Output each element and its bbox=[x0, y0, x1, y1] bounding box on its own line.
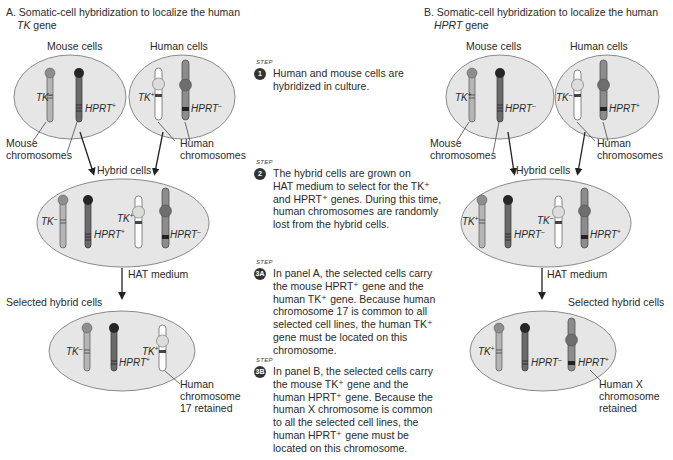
retained-label: chromosome bbox=[599, 390, 660, 403]
gene-label: TK– bbox=[66, 346, 82, 357]
gene-label: HPRT– bbox=[191, 103, 222, 114]
panel-a-title: A. Somatic-cell hybridization to localiz… bbox=[6, 6, 240, 19]
gene-label: TK+ bbox=[455, 92, 472, 103]
gene-label: TK+ bbox=[142, 346, 159, 357]
human-chromosomes-label: chromosomes bbox=[597, 149, 663, 162]
step-3a-text: In panel A, the selected cells carry the… bbox=[273, 267, 435, 357]
hat-medium-label: HAT medium bbox=[128, 268, 188, 281]
step-badge-1: 1 bbox=[254, 68, 266, 80]
retained-label: Human X bbox=[599, 378, 643, 391]
human-chromosomes-label: Human bbox=[180, 137, 214, 150]
mouse-chromosomes-label: Mouse bbox=[430, 137, 462, 150]
gene-label: HPRT– bbox=[531, 357, 562, 368]
hat-medium-label: HAT medium bbox=[547, 268, 607, 281]
step-tag: STEP bbox=[256, 59, 273, 65]
gene-label: HPRT+ bbox=[590, 229, 621, 240]
panel-a-human-cells-label: Human cells bbox=[150, 40, 208, 53]
gene-label: TK+ bbox=[462, 216, 479, 227]
panel-b-mouse-cells-label: Mouse cells bbox=[466, 40, 521, 53]
retained-label: retained bbox=[599, 402, 637, 415]
gene-label: TK– bbox=[537, 215, 553, 226]
retained-label: 17 retained bbox=[180, 402, 233, 415]
mouse-chromosomes-label: Mouse bbox=[6, 137, 38, 150]
step-2-text: The hybrid cells are grown on HAT medium… bbox=[273, 167, 441, 231]
panel-b-human-cells-label: Human cells bbox=[570, 40, 628, 53]
hybrid-cells-label: Hybrid cells bbox=[97, 164, 151, 177]
gene-label: HPRT+ bbox=[119, 357, 150, 368]
selected-hybrid-cells-label: Selected hybrid cells bbox=[568, 296, 664, 309]
retained-label: chromosome bbox=[180, 390, 241, 403]
gene-label: TK+ bbox=[478, 346, 495, 357]
step-badge-2: 2 bbox=[254, 168, 266, 180]
step-1-text: Human and mouse cells are hybridized in … bbox=[273, 67, 404, 93]
gene-label: HPRT+ bbox=[85, 103, 116, 114]
gene-label: TK– bbox=[556, 92, 572, 103]
step-tag: STEP bbox=[256, 159, 273, 165]
gene-label: TK– bbox=[41, 216, 57, 227]
gene-label: HPRT– bbox=[514, 229, 545, 240]
gene-label: HPRT+ bbox=[94, 229, 125, 240]
gene-label: HPRT– bbox=[170, 229, 201, 240]
gene-label: HPRT– bbox=[505, 103, 536, 114]
gene-label: TK– bbox=[36, 92, 52, 103]
panel-b-title-line2: HPRT gene bbox=[434, 19, 489, 32]
human-chromosomes-label: chromosomes bbox=[180, 149, 246, 162]
gene-label: HPRT+ bbox=[609, 103, 640, 114]
step-badge-3b: 3B bbox=[254, 366, 266, 378]
selected-hybrid-cells-label: Selected hybrid cells bbox=[6, 296, 102, 309]
mouse-chromosomes-label: chromosomes bbox=[6, 149, 72, 162]
panel-a-title-line2: TK gene bbox=[17, 19, 57, 32]
hybrid-cells-label: Hybrid cells bbox=[516, 164, 570, 177]
step-3b-text: In panel B, the selected cells carry the… bbox=[273, 365, 433, 455]
step-tag: STEP bbox=[256, 259, 273, 265]
panel-a-mouse-cell bbox=[14, 55, 126, 139]
gene-label: HPRT+ bbox=[578, 357, 609, 368]
step-badge-3a: 3A bbox=[254, 268, 266, 280]
human-chromosomes-label: Human bbox=[597, 137, 631, 150]
gene-label: TK+ bbox=[117, 213, 134, 224]
step-tag: STEP bbox=[256, 357, 273, 363]
panel-b-title: B. Somatic-cell hybridization to localiz… bbox=[424, 6, 658, 19]
retained-label: Human bbox=[180, 378, 214, 391]
gene-label: TK+ bbox=[138, 92, 155, 103]
panel-a-mouse-cells-label: Mouse cells bbox=[47, 40, 102, 53]
mouse-chromosomes-label: chromosomes bbox=[430, 149, 496, 162]
